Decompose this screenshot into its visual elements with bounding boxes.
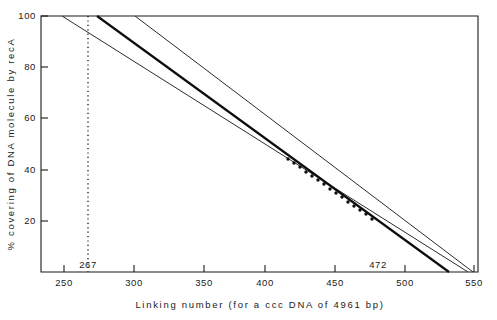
data-point (364, 212, 367, 215)
y-axis-tick-labels: 100 80 60 40 20 (18, 10, 36, 226)
y-axis-title: % covering of DNA molecule by recA (5, 37, 16, 250)
x-ticklabel-400: 400 (256, 277, 274, 288)
data-point (352, 204, 355, 207)
x-ticklabel-550: 550 (465, 277, 483, 288)
y-ticklabel-60: 60 (24, 112, 36, 123)
x-axis-title: Linking number (for a ccc DNA of 4961 bp… (135, 299, 384, 310)
y-axis-ticks (41, 16, 48, 221)
annotation-label-472: 472 (369, 259, 387, 270)
x-axis-ticks (64, 265, 474, 272)
data-point (358, 208, 361, 211)
x-ticklabel-500: 500 (396, 277, 414, 288)
data-point (340, 195, 343, 198)
upper-bound-line (62, 16, 468, 272)
annotation-label-267: 267 (79, 259, 97, 270)
data-point (334, 191, 337, 194)
x-ticklabel-350: 350 (195, 277, 213, 288)
data-point (286, 157, 289, 160)
y-ticklabel-80: 80 (24, 61, 36, 72)
data-point (292, 161, 295, 164)
data-point (328, 187, 331, 190)
data-point (298, 165, 301, 168)
lower-bound-line (135, 16, 473, 272)
x-ticklabel-250: 250 (55, 277, 73, 288)
x-ticklabel-300: 300 (125, 277, 143, 288)
data-point (346, 200, 349, 203)
chart-plot-area: 100 80 60 40 20 250 300 350 400 450 500 … (0, 0, 497, 320)
chart-figure: 100 80 60 40 20 250 300 350 400 450 500 … (0, 0, 497, 320)
y-ticklabel-100: 100 (18, 10, 36, 21)
x-axis-tick-labels: 250 300 350 400 450 500 550 (55, 277, 483, 288)
experimental-points (286, 157, 373, 220)
data-point (370, 217, 373, 220)
x-ticklabel-450: 450 (326, 277, 344, 288)
best-fit-line (97, 16, 449, 272)
y-ticklabel-40: 40 (24, 164, 36, 175)
data-point (322, 182, 325, 185)
data-point (304, 170, 307, 173)
y-ticklabel-20: 20 (24, 215, 36, 226)
plot-frame (41, 16, 478, 272)
data-point (316, 178, 319, 181)
data-point (310, 174, 313, 177)
